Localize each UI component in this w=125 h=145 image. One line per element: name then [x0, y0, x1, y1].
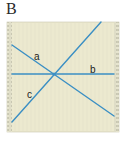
diagram-box	[7, 22, 119, 132]
intersection-point	[52, 72, 55, 75]
line-label-a: a	[34, 51, 40, 62]
line-label-b: b	[90, 64, 96, 75]
line-label-c: c	[27, 89, 32, 100]
right-hatched-margin	[114, 22, 119, 132]
lines-diagram: abc	[0, 0, 125, 145]
left-hatched-margin	[7, 22, 12, 132]
